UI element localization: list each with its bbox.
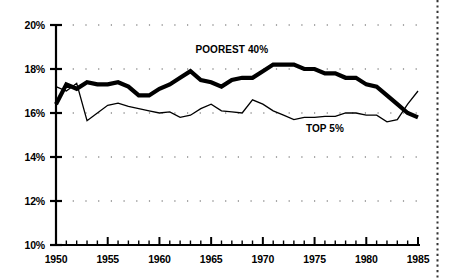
y-tick-label: 14% <box>25 151 46 163</box>
x-tick-label: 1950 <box>45 253 68 265</box>
x-tick-label: 1985 <box>407 253 430 265</box>
chart-background <box>0 0 451 279</box>
series-label-poorest-40: POOREST 40% <box>195 44 268 55</box>
x-tick-label: 1955 <box>96 253 119 265</box>
y-tick-label: 20% <box>25 19 46 31</box>
series-label-top-5: TOP 5% <box>306 123 344 134</box>
x-tick-label: 1965 <box>200 253 223 265</box>
y-tick-label: 18% <box>25 63 46 75</box>
chart-container: 10%12%14%16%18%20% 195019551960196519701… <box>0 0 451 279</box>
income-share-line-chart: 10%12%14%16%18%20% 195019551960196519701… <box>0 0 451 279</box>
y-tick-label: 16% <box>25 107 46 119</box>
x-tick-label: 1975 <box>303 253 326 265</box>
x-tick-label: 1980 <box>355 253 378 265</box>
y-tick-label: 12% <box>25 195 46 207</box>
x-tick-label: 1970 <box>252 253 275 265</box>
y-tick-label: 10% <box>25 239 46 251</box>
x-tick-label: 1960 <box>148 253 171 265</box>
